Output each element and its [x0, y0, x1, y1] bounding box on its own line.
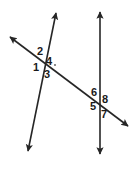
label-dot-after-4 — [54, 64, 56, 66]
angle-label-7: 7 — [101, 109, 107, 120]
angle-label-6: 6 — [91, 87, 97, 98]
angle-label-3: 3 — [44, 69, 50, 80]
angle-label-1: 1 — [33, 62, 39, 73]
angle-label-2: 2 — [37, 46, 43, 57]
angle-label-4: 4 — [46, 56, 52, 67]
left-slanted-line — [28, 13, 56, 151]
lines-and-arrows-canvas — [0, 0, 137, 174]
transversal-line — [10, 37, 128, 126]
angle-label-8: 8 — [102, 94, 108, 105]
geometry-figure: 2 4 1 3 6 8 5 7 — [0, 0, 137, 174]
angle-label-5: 5 — [90, 101, 96, 112]
